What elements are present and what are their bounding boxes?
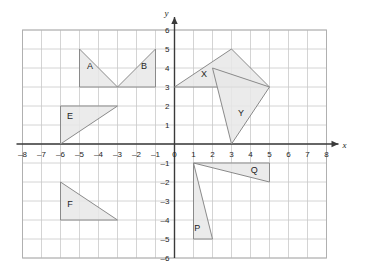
x-tick-label: –5 bbox=[75, 150, 84, 159]
shape-label-p: P bbox=[194, 223, 200, 233]
y-tick-label: 2 bbox=[165, 102, 170, 111]
coordinate-plane-svg: –8–7–6–5–4–3–2–1012345678–6–5–4–3–2–1123… bbox=[0, 0, 365, 277]
y-tick-label: –1 bbox=[161, 159, 170, 168]
x-tick-label: 8 bbox=[324, 150, 329, 159]
y-tick-label: 4 bbox=[165, 64, 170, 73]
y-axis-arrowhead bbox=[171, 17, 177, 24]
shape-label-f: F bbox=[67, 199, 73, 209]
x-tick-label: –4 bbox=[94, 150, 103, 159]
x-tick-label: 3 bbox=[229, 150, 234, 159]
x-axis-label: x bbox=[342, 140, 347, 150]
y-tick-label: –6 bbox=[161, 254, 170, 263]
x-axis-arrowhead bbox=[332, 141, 339, 147]
y-axis-label: y bbox=[164, 8, 169, 18]
y-tick-label: –5 bbox=[161, 235, 170, 244]
y-tick-label: –4 bbox=[161, 216, 170, 225]
shape-label-y: Y bbox=[238, 108, 244, 118]
shape-label-x: X bbox=[201, 69, 207, 79]
x-tick-label: –8 bbox=[18, 150, 27, 159]
shape-label-q: Q bbox=[251, 165, 258, 175]
y-tick-label: –2 bbox=[161, 178, 170, 187]
y-tick-label: –3 bbox=[161, 197, 170, 206]
shape-label-a: A bbox=[87, 61, 93, 71]
x-tick-label: 7 bbox=[305, 150, 310, 159]
x-tick-label: –6 bbox=[56, 150, 65, 159]
x-tick-label: 4 bbox=[248, 150, 253, 159]
x-tick-label: –7 bbox=[37, 150, 46, 159]
x-tick-label: –1 bbox=[151, 150, 160, 159]
x-tick-label: –3 bbox=[113, 150, 122, 159]
x-tick-label: –2 bbox=[132, 150, 141, 159]
y-tick-label: 5 bbox=[165, 45, 170, 54]
shape-label-e: E bbox=[67, 111, 73, 121]
coordinate-plane-figure: –8–7–6–5–4–3–2–1012345678–6–5–4–3–2–1123… bbox=[0, 0, 365, 277]
x-tick-label: 1 bbox=[191, 150, 196, 159]
shape-label-b: B bbox=[141, 61, 147, 71]
x-tick-label: 6 bbox=[286, 150, 291, 159]
x-tick-label: 5 bbox=[267, 150, 272, 159]
y-tick-label: 3 bbox=[165, 83, 170, 92]
x-tick-label: 0 bbox=[172, 150, 177, 159]
x-tick-label: 2 bbox=[210, 150, 215, 159]
y-tick-label: 6 bbox=[165, 26, 170, 35]
y-tick-label: 1 bbox=[165, 121, 170, 130]
